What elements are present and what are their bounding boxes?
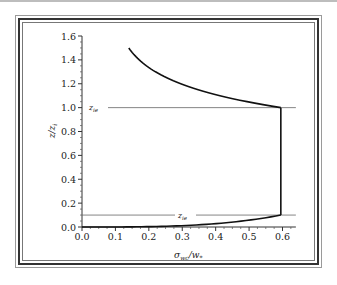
profile-curve-upper xyxy=(129,48,281,108)
y-tick-label: 0.4 xyxy=(61,174,76,185)
y-tick-label: 1.2 xyxy=(61,78,76,89)
x-tick-label: 0.5 xyxy=(242,231,257,242)
x-tick-label: 0.2 xyxy=(141,231,156,242)
x-tick-label: 0.1 xyxy=(108,231,123,242)
y-axis-label: z/zi xyxy=(47,124,58,140)
x-tick-label: 0.3 xyxy=(175,231,190,242)
y-tick-label: 0.2 xyxy=(61,198,76,209)
annotation-zie-bottom: zie xyxy=(177,211,188,221)
x-axis-label: σwc/w* xyxy=(174,250,202,261)
x-tick-label: 0.6 xyxy=(275,231,290,242)
annotation-zie-top: zie xyxy=(88,103,99,113)
x-tick-label: 0.4 xyxy=(208,231,223,242)
chart: 0.00.20.40.60.81.01.21.41.60.00.10.20.30… xyxy=(0,0,337,285)
x-tick-label: 0.0 xyxy=(74,231,89,242)
y-tick-label: 1.4 xyxy=(61,54,76,65)
y-tick-label: 0.8 xyxy=(61,126,76,137)
y-tick-label: 1.0 xyxy=(61,102,76,113)
y-tick-label: 0.6 xyxy=(61,150,76,161)
y-tick-label: 1.6 xyxy=(61,31,76,42)
